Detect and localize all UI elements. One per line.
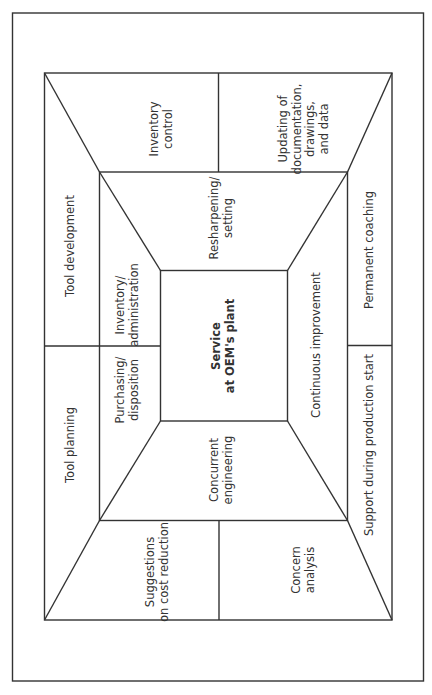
- label-support-production-start: Support during production start: [363, 345, 377, 545]
- label-concurrent-engineering: Concurrent engineering: [208, 410, 236, 530]
- label-updating-documentation: Updating of documentation, drawings, and…: [277, 69, 331, 189]
- label-service-oem-plant: Service at OEM's plant: [210, 286, 238, 406]
- label-concern-analysis: Concern analysis: [290, 510, 318, 630]
- label-purchasing-disposition: Purchasing/ disposition: [114, 335, 142, 445]
- label-tool-development: Tool development: [64, 156, 78, 336]
- label-permanent-coaching: Permanent coaching: [363, 160, 377, 340]
- label-tool-planning: Tool planning: [64, 355, 78, 535]
- diagonal-outer-top-right: [348, 73, 393, 172]
- label-inventory-control: Inventory control: [148, 69, 174, 189]
- diagonal-middle-bottom-right: [288, 421, 348, 521]
- label-resharpening-setting: Resharpening/ setting: [208, 158, 236, 278]
- label-continuous-improvement: Continuous improvement: [310, 255, 324, 435]
- label-suggestions-cost-reduction: Suggestions on cost reduction: [144, 512, 172, 632]
- diagonal-outer-bottom-left: [45, 521, 100, 621]
